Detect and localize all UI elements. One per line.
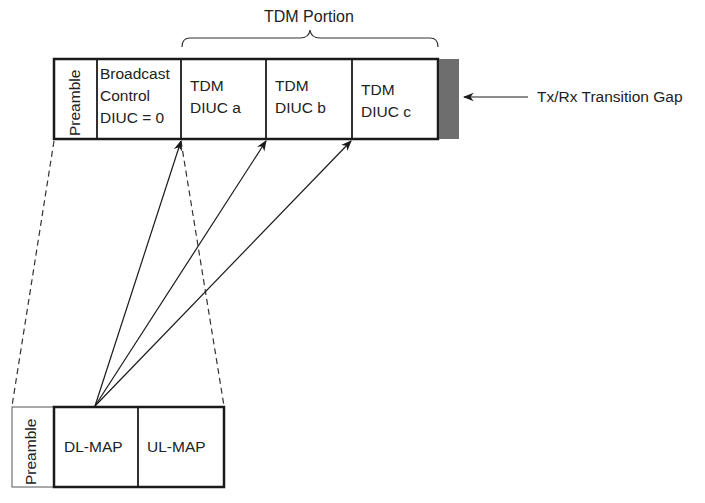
tdm-b-label-line1: TDM bbox=[275, 76, 309, 96]
transition-gap-block bbox=[439, 59, 459, 139]
arrow-to-diuc-b bbox=[95, 141, 266, 406]
top-preamble-label: Preamble bbox=[66, 70, 84, 136]
tdm-c-label-line1: TDM bbox=[361, 80, 395, 100]
broadcast-label-line3: DIUC = 0 bbox=[100, 108, 164, 128]
broadcast-label-line1: Broadcast bbox=[100, 64, 170, 84]
tdm-portion-label: TDM Portion bbox=[264, 7, 354, 27]
bottom-preamble-label: Preamble bbox=[22, 419, 40, 485]
transition-gap-label: Tx/Rx Transition Gap bbox=[537, 87, 683, 107]
tdm-b-label-line2: DIUC b bbox=[275, 98, 326, 118]
arrow-to-diuc-c bbox=[95, 141, 351, 406]
tdm-c-label-line2: DIUC c bbox=[361, 102, 411, 122]
zoom-line-left bbox=[12, 141, 54, 406]
tdm-portion-brace bbox=[182, 30, 438, 47]
tdm-a-label-line2: DIUC a bbox=[190, 98, 241, 118]
zoom-line-right bbox=[181, 141, 224, 406]
broadcast-label-line2: Control bbox=[100, 86, 150, 106]
arrow-to-diuc-a bbox=[95, 141, 181, 406]
ul-map-label: UL-MAP bbox=[147, 437, 206, 457]
tdm-a-label-line1: TDM bbox=[190, 76, 224, 96]
dl-map-label: DL-MAP bbox=[64, 437, 123, 457]
